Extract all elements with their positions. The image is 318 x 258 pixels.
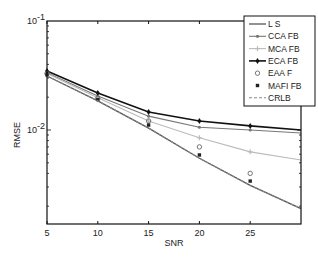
- point-marker: [248, 123, 252, 129]
- x-axis-label: SNR: [164, 238, 184, 248]
- x-tick-label: 10: [93, 228, 103, 238]
- legend-label: EAA F: [268, 68, 292, 78]
- legend-label: CRLB: [268, 93, 291, 103]
- point-marker: [249, 179, 252, 182]
- y-axis-label: RMSE: [12, 122, 22, 148]
- x-tick-label: 25: [245, 228, 255, 238]
- legend-label: CCA FB: [268, 31, 299, 41]
- axis-tick-labels: 51015202510-110-2: [27, 12, 255, 238]
- point-marker: [256, 84, 259, 87]
- y-tick-label: 10: [27, 16, 37, 26]
- x-tick-label: 15: [144, 228, 154, 238]
- point-marker: [197, 145, 201, 149]
- rmse-vs-snr-chart: 51015202510-110-2 SNR RMSE L SCCA FBMCA …: [0, 0, 318, 258]
- x-tick-label: 20: [194, 228, 204, 238]
- point-marker: [256, 35, 259, 38]
- y-tick-label: 10: [27, 125, 37, 135]
- point-marker: [198, 126, 201, 129]
- point-marker: [198, 153, 201, 156]
- legend-label: MAFI FB: [268, 81, 302, 91]
- legend: L SCCA FBMCA FBECA FBEAA FMAFI FBCRLB: [244, 16, 315, 106]
- legend-label: MCA FB: [268, 44, 300, 54]
- point-marker: [147, 123, 150, 126]
- y-tick-exponent: -1: [37, 12, 45, 22]
- point-marker: [147, 109, 151, 115]
- point-marker: [248, 171, 252, 175]
- legend-label: L S: [268, 19, 281, 29]
- x-tick-label: 5: [44, 228, 49, 238]
- point-marker: [197, 118, 201, 124]
- legend-label: ECA FB: [268, 56, 299, 66]
- y-tick-exponent: -2: [37, 121, 45, 131]
